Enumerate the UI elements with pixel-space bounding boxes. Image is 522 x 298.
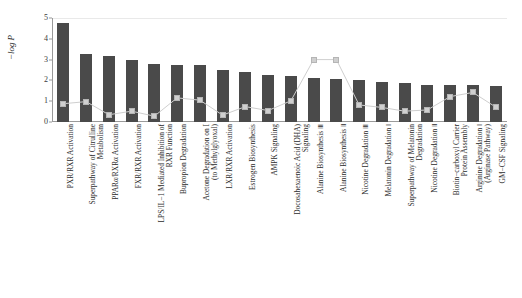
line-marker	[83, 99, 89, 105]
line-marker	[151, 113, 157, 119]
line-marker	[333, 57, 339, 63]
x-axis-label-line: PXR/RXR Activation	[67, 124, 75, 188]
x-axis-label: AMPK Signaling	[271, 124, 279, 176]
x-axis-label: Nicotine Degradation Ⅱ	[431, 124, 439, 193]
line-marker	[197, 97, 203, 103]
line-marker	[402, 108, 408, 114]
x-axis-label-line: Metabolism	[98, 124, 106, 204]
x-axis-label: Acetone Degradation on I(to Methylglyoxa…	[203, 124, 220, 201]
line-marker	[129, 108, 135, 114]
x-axis-label: Melatonin Degradation Ⅰ	[385, 124, 393, 197]
x-axis-label-line: Estrogen Biosynthesis	[249, 124, 257, 190]
line-marker	[242, 104, 248, 110]
line-marker	[493, 104, 499, 110]
x-axis-label: Estrogen Biosynthesis	[249, 124, 257, 190]
x-axis-label-line: FXR/RXR Activation	[135, 124, 143, 188]
line-marker	[311, 57, 317, 63]
x-axis-label-line: Signaling	[302, 124, 310, 215]
x-axis-label: Docosahexaenoic Acid (DHA)Signaling	[294, 124, 311, 215]
line-marker	[424, 107, 430, 113]
x-axis-label-line: AMPK Signaling	[271, 124, 279, 176]
x-axis-label: LXR/RXR Activation	[226, 124, 234, 189]
x-axis-label: PPARα/RXRα Activation	[112, 124, 120, 200]
x-axis-label-line: PPARα/RXRα Activation	[112, 124, 120, 200]
x-axis-label-line: (Arginase Pathway)	[484, 124, 492, 192]
x-axis-label: Bupropion Degradation	[180, 124, 188, 194]
line-marker	[60, 101, 66, 107]
x-axis-label: Alanine Biosynthesis Ⅲ	[317, 124, 325, 194]
line-series	[52, 18, 507, 122]
line-marker	[470, 89, 476, 95]
x-axis-label-line: Alanine Biosynthesis Ⅱ	[340, 124, 348, 192]
x-axis-label: Arginine Degradation Ⅰ(Arginase Pathway)	[476, 124, 493, 192]
line-marker	[265, 108, 271, 114]
x-axis-label: PXR/RXR Activation	[67, 124, 75, 188]
x-axis-label-line: (to Methylglyoxal)	[211, 124, 219, 201]
pathway-enrichment-chart: −log P 012345 PXR/RXR ActivationSuperpat…	[0, 0, 522, 298]
x-axis-label: Alanine Biosynthesis Ⅱ	[340, 124, 348, 192]
x-axis-label: FXR/RXR Activation	[135, 124, 143, 188]
x-axis-label-line: Bupropion Degradation	[180, 124, 188, 194]
plot-area: 012345	[52, 18, 507, 122]
x-axis-label-line: Alanine Biosynthesis Ⅲ	[317, 124, 325, 194]
x-axis-label: Superpathway of CitrullineMetabolism	[89, 124, 106, 204]
x-axis-label: LPS/IL−1 Mediated Inhibition ofRXR Funct…	[158, 124, 175, 222]
y-axis-title: −log P	[6, 35, 16, 60]
line-marker	[447, 94, 453, 100]
line-marker	[220, 112, 226, 118]
x-axis-labels: PXR/RXR ActivationSuperpathway of Citrul…	[52, 124, 507, 296]
x-axis-label-line: RXR Function	[166, 124, 174, 222]
line-marker	[288, 98, 294, 104]
x-axis-label-line: Melatonin Degradation Ⅰ	[385, 124, 393, 197]
x-axis-label: Nicotine Degradation Ⅲ	[362, 124, 370, 195]
x-axis-label-line: Nicotine Degradation Ⅲ	[362, 124, 370, 195]
line-marker	[379, 104, 385, 110]
x-axis-label-line: GM−CSF Signaling	[499, 124, 507, 183]
line-marker	[174, 95, 180, 101]
x-axis-label-line: Nicotine Degradation Ⅱ	[431, 124, 439, 193]
x-axis-label: GM−CSF Signaling	[499, 124, 507, 183]
line-marker	[106, 112, 112, 118]
x-axis-label-line: LXR/RXR Activation	[226, 124, 234, 189]
x-axis-label: Superpathway of MelatoninDegradation	[408, 124, 425, 207]
line-marker	[356, 102, 362, 108]
x-axis-label: Biotin−carboxyl CarrierProtein Assembly	[453, 124, 470, 195]
x-axis-label-line: Protein Assembly	[462, 124, 470, 195]
x-axis-label-line: Degradation	[416, 124, 424, 207]
